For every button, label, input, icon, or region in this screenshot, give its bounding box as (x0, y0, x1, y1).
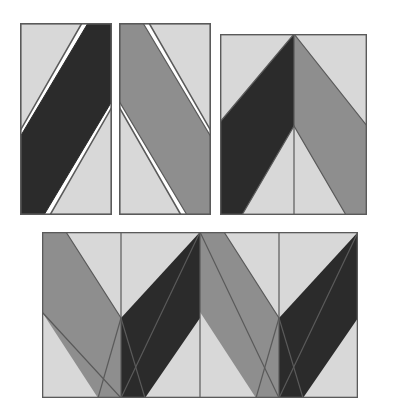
chevron-pair-svg (220, 34, 367, 215)
tile-dark-rising-svg (20, 23, 112, 215)
tile-group-chevron-one (220, 34, 367, 215)
tile-group-chevron-row (42, 232, 358, 398)
figure-root (0, 0, 403, 418)
tile-gray-falling-svg (119, 23, 211, 215)
chevron-row-svg (42, 232, 358, 398)
tile-group-single-dark (20, 23, 112, 215)
tile-group-single-gray (119, 23, 211, 215)
